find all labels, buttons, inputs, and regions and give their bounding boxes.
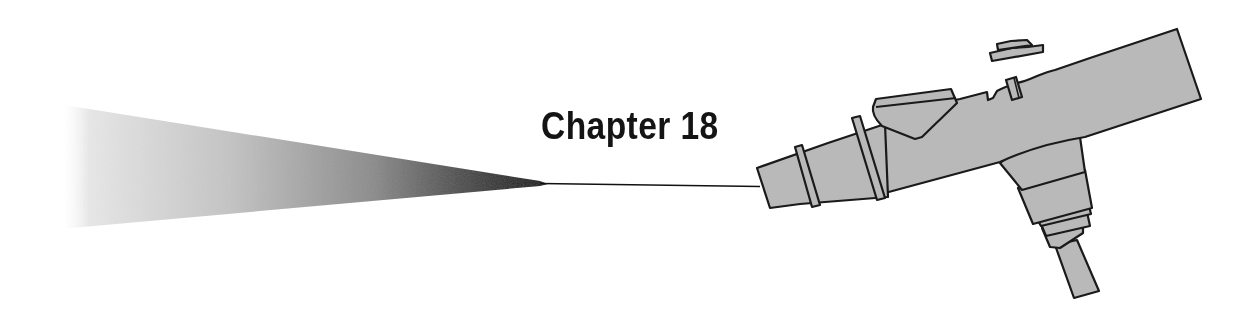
chapter-opener: Chapter 18: [0, 0, 1246, 317]
airbrush-icon: [757, 29, 1201, 298]
air-hose-connector: [1000, 137, 1099, 298]
chapter-title: Chapter 18: [541, 106, 719, 145]
airbrush-illustration: [0, 0, 1246, 317]
